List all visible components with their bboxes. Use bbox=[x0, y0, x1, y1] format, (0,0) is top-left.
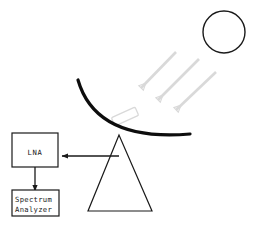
spectrum-analyzer-label-line2: Analyzer bbox=[15, 205, 52, 214]
tripod-mount-group bbox=[88, 135, 152, 211]
incoming-rays-group bbox=[141, 52, 216, 110]
lna-label: LNA bbox=[28, 148, 43, 157]
spectrum-analyzer-block: Spectrum Analyzer bbox=[12, 190, 59, 216]
sun-group bbox=[203, 11, 245, 53]
ray-1-arrow-icon bbox=[141, 52, 176, 88]
sun-icon bbox=[203, 11, 245, 53]
spectrum-analyzer-label-line1: Spectrum bbox=[15, 195, 52, 204]
tripod-mount bbox=[88, 135, 152, 211]
diagram-canvas: LNA Spectrum Analyzer bbox=[0, 0, 257, 230]
radio-telescope-diagram: LNA Spectrum Analyzer bbox=[0, 0, 257, 230]
lna-block: LNA bbox=[12, 133, 58, 167]
